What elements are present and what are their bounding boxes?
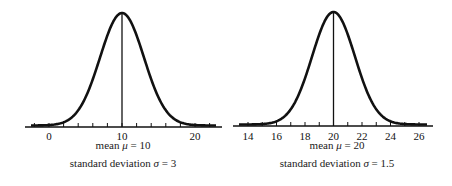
left-normal-curve xyxy=(31,13,216,125)
left-caption-sd: standard deviation σ = 3 xyxy=(36,157,210,169)
right-caption-sd: standard deviation σ = 1.5 xyxy=(250,157,424,169)
left-caption-mean: mean μ = 10 xyxy=(36,139,210,151)
right-caption-mean: mean μ = 20 xyxy=(250,139,424,151)
